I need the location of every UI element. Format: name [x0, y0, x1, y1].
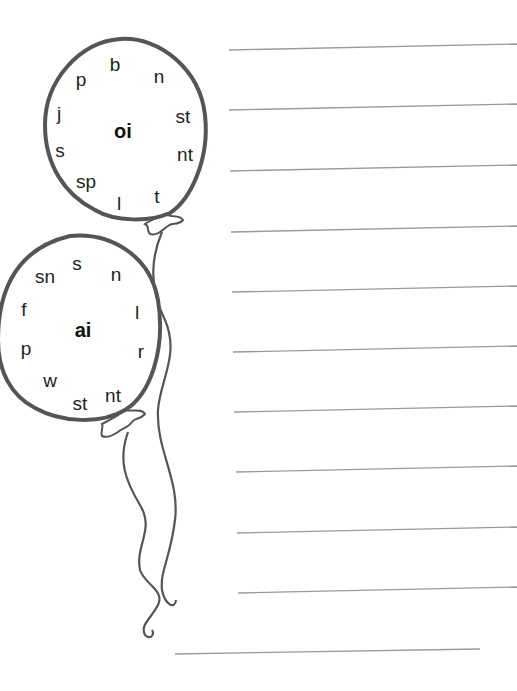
balloon-letter: sn	[35, 267, 55, 286]
balloon-letter: f	[21, 300, 26, 319]
answer-line[interactable]	[175, 649, 480, 654]
worksheet-page: oibnpjstsntsptlaissnnflprwntst	[0, 0, 517, 691]
answer-line[interactable]	[229, 44, 517, 50]
balloon-letter: l	[135, 303, 139, 322]
answer-line[interactable]	[238, 587, 517, 593]
balloon-letter: nt	[177, 145, 193, 164]
balloon-drawing	[0, 0, 517, 691]
balloon-letter: n	[154, 67, 165, 86]
balloon-string	[123, 432, 159, 637]
balloon-letter: sp	[76, 172, 96, 191]
balloon-letter: nt	[105, 386, 121, 405]
balloon-letter: t	[154, 187, 159, 206]
answer-line[interactable]	[232, 286, 517, 292]
answer-line[interactable]	[229, 104, 517, 110]
balloon-letter: p	[21, 339, 32, 358]
balloon-ai-knot	[101, 410, 145, 437]
balloon-letter: w	[43, 371, 57, 390]
balloon-letter: st	[73, 394, 88, 413]
answer-line[interactable]	[233, 346, 517, 352]
answer-line[interactable]	[231, 226, 517, 232]
answer-line[interactable]	[237, 527, 517, 533]
balloon-letter: st	[176, 107, 191, 126]
answer-line[interactable]	[234, 406, 517, 412]
balloon-letter: j	[57, 104, 61, 123]
balloon-letter: l	[117, 194, 121, 213]
balloon-letter: p	[76, 70, 87, 89]
balloon-center-label: oi	[114, 121, 132, 141]
balloon-letter: s	[72, 254, 82, 273]
answer-line[interactable]	[236, 466, 517, 472]
balloon-letter: r	[138, 342, 144, 361]
answer-line[interactable]	[230, 165, 517, 171]
balloon-letter: b	[110, 55, 121, 74]
balloon-center-label: ai	[75, 320, 92, 340]
answer-lines	[175, 44, 517, 654]
balloon-letter: s	[55, 141, 65, 160]
balloon-letter: n	[111, 265, 122, 284]
